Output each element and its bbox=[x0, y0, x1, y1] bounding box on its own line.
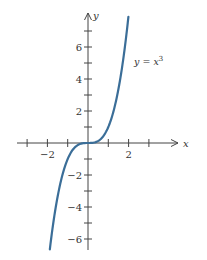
y-tick-label: 4 bbox=[76, 74, 82, 85]
y-tick-label: 2 bbox=[76, 106, 82, 117]
x-tick-label: 2 bbox=[125, 149, 131, 160]
y-axis-label: y bbox=[92, 10, 99, 21]
x-axis-label: x bbox=[183, 138, 189, 149]
cubic-function-chart: −22642−2−4−6xyy = x3 bbox=[0, 0, 207, 260]
curve-layer bbox=[50, 17, 129, 249]
function-label: y = x3 bbox=[133, 55, 163, 67]
y-tick-label: −2 bbox=[67, 170, 82, 181]
y-tick-label: −6 bbox=[67, 234, 82, 245]
y-tick-label: 6 bbox=[76, 42, 82, 53]
x-tick-label: −2 bbox=[40, 149, 55, 160]
y-tick-label: −4 bbox=[67, 202, 82, 213]
axes bbox=[17, 13, 178, 250]
cubic-curve bbox=[50, 17, 129, 249]
labels: −22642−2−4−6xyy = x3 bbox=[40, 10, 189, 245]
